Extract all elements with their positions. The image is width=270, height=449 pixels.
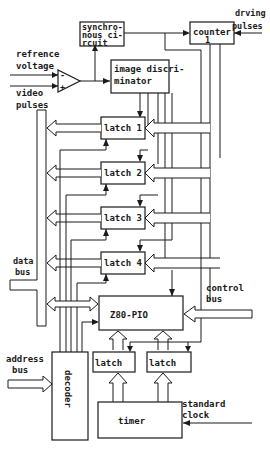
latch-1-label: latch 1 bbox=[104, 123, 142, 133]
latch-3-block: latch 3 bbox=[101, 207, 145, 229]
latch-3-label: latch 3 bbox=[104, 213, 142, 223]
standard-clock-label-1: standard bbox=[182, 399, 225, 409]
latch-4-label: latch 4 bbox=[104, 258, 143, 268]
video-pulses-label-1: video bbox=[16, 88, 43, 98]
bottom-latch-to-pio bbox=[109, 331, 201, 352]
latch-right-block: latch bbox=[147, 352, 191, 372]
sync-label-3: rcuit bbox=[82, 38, 108, 48]
z80-pio-label: Z80-PIO bbox=[110, 310, 149, 320]
decoder-label: decoder bbox=[63, 370, 73, 409]
block-diagram: - + synchro- nous ci- rcuit counter 1 im… bbox=[0, 0, 270, 449]
data-bus-trunk bbox=[10, 110, 46, 326]
timer-label: timer bbox=[118, 416, 146, 426]
reference-voltage-label-2: voltage bbox=[16, 61, 55, 71]
discriminator-label-1: image discri- bbox=[114, 64, 184, 74]
pio-data-bus-arrow bbox=[47, 297, 98, 311]
address-bus-label-1: address bbox=[6, 354, 44, 364]
latch-2-block: latch 2 bbox=[101, 162, 145, 184]
data-bus-label-2: bus bbox=[15, 267, 30, 277]
comparator-plus: + bbox=[60, 82, 65, 92]
control-bus-label-2: bus bbox=[206, 294, 222, 304]
comparator-minus: - bbox=[60, 70, 65, 80]
address-bus-label-2: bus bbox=[12, 365, 28, 375]
timer-block: timer bbox=[98, 402, 252, 438]
latch-left-label: latch bbox=[95, 358, 122, 368]
discriminator-label-2: minator bbox=[114, 76, 153, 86]
driving-pulses-label-1: drving bbox=[235, 8, 266, 18]
counter-label: counter bbox=[193, 27, 232, 37]
synchronous-circuit-block: synchro- nous ci- rcuit bbox=[80, 22, 190, 48]
latch-left-block: latch bbox=[93, 352, 135, 372]
image-discriminator-block: image discri- minator bbox=[111, 60, 184, 260]
latch-right-label: latch bbox=[149, 358, 176, 368]
control-bus-label-1: control bbox=[206, 283, 244, 293]
data-bus-label-1: data bbox=[13, 256, 33, 266]
counter-sub-label: 1 bbox=[205, 35, 210, 45]
latch-1-block: latch 1 bbox=[101, 117, 145, 139]
video-pulses-label-2: pulses bbox=[16, 100, 49, 110]
driving-pulses-label-2: pulses bbox=[232, 21, 263, 31]
latch-4-block: latch 4 bbox=[101, 252, 145, 274]
timer-to-latches bbox=[109, 373, 172, 402]
latch-2-label: latch 2 bbox=[104, 168, 142, 178]
reference-voltage-label-1: refrence bbox=[16, 49, 60, 59]
standard-clock-label-2: clock bbox=[182, 410, 210, 420]
